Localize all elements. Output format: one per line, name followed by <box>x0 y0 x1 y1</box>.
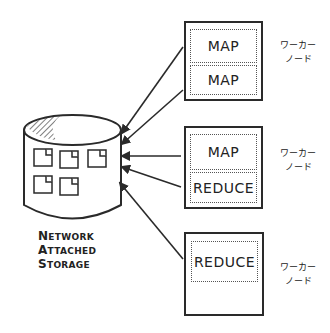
nas-initial-a: A <box>38 243 48 257</box>
worker-node-label: ワーカー ノード <box>276 38 320 66</box>
arrow-icon <box>122 90 183 144</box>
network-attached-storage-label: NETWORK ATTACHED STORAGE <box>38 230 118 272</box>
nas-rest-3: TORAGE <box>47 260 90 270</box>
arrow-icon <box>120 183 183 259</box>
worker-node-label: ワーカー ノード <box>276 146 320 174</box>
task-reduce: REDUCE <box>190 172 257 203</box>
task-map: MAP <box>190 65 257 95</box>
nas-rest-2: TTACHED <box>48 246 97 256</box>
arrow-icon <box>122 167 181 187</box>
nas-initial-s: S <box>38 257 47 271</box>
worker-node-label: ワーカー ノード <box>276 260 320 288</box>
worker-node-2: MAP REDUCE <box>184 126 263 209</box>
task-map: MAP <box>190 29 257 63</box>
task-reduce: REDUCE <box>191 241 258 282</box>
worker-node-1: MAP MAP <box>184 21 263 101</box>
database-cylinder-icon <box>24 115 121 219</box>
label-line: ワーカー <box>276 146 320 160</box>
nas-rest-1: ETWORK <box>48 232 94 242</box>
data-flow-arrows <box>120 47 183 259</box>
label-line: ノード <box>276 160 320 174</box>
label-line: ワーカー <box>276 38 320 52</box>
arrow-icon <box>122 47 183 133</box>
nas-initial-n: N <box>38 229 48 243</box>
label-line: ノード <box>276 52 320 66</box>
task-map: MAP <box>190 134 257 170</box>
label-line: ノード <box>276 274 320 288</box>
label-line: ワーカー <box>276 260 320 274</box>
worker-node-3: REDUCE <box>184 232 264 316</box>
